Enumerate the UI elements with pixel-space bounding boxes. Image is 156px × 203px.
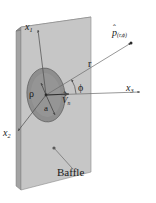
baffle-caption: Baffle bbox=[57, 167, 84, 178]
source-coordinate-label: ρ bbox=[29, 89, 34, 99]
baffle-thickness-left bbox=[16, 27, 21, 190]
axis-label-x1-sub: 1 bbox=[29, 26, 32, 33]
axis-label-x2-sub: 2 bbox=[7, 132, 10, 139]
normal-velocity-label: ˆVn bbox=[62, 96, 70, 106]
axis-label-x3-sub: 3 bbox=[130, 87, 133, 94]
field-point-label: ˆp(r,ϕ) bbox=[112, 28, 127, 39]
baffled-piston-figure: x1 x2 x3 ˆp(r,ϕ) r ϕ ˆVn ρ a Baffle bbox=[0, 0, 156, 203]
axis-label-x3: x3 bbox=[126, 83, 134, 94]
axis-label-x2: x2 bbox=[3, 128, 11, 139]
field-point-marker bbox=[130, 42, 133, 45]
radial-distance-label: r bbox=[88, 59, 91, 69]
polar-angle-label: ϕ bbox=[78, 83, 83, 93]
p-hat-accent: ˆ bbox=[113, 24, 116, 33]
field-point-subscript: (r,ϕ) bbox=[117, 32, 127, 38]
v-hat-accent: ˆ bbox=[63, 92, 66, 100]
axis-label-x1: x1 bbox=[25, 22, 33, 33]
piston-radius-label: a bbox=[44, 104, 48, 113]
